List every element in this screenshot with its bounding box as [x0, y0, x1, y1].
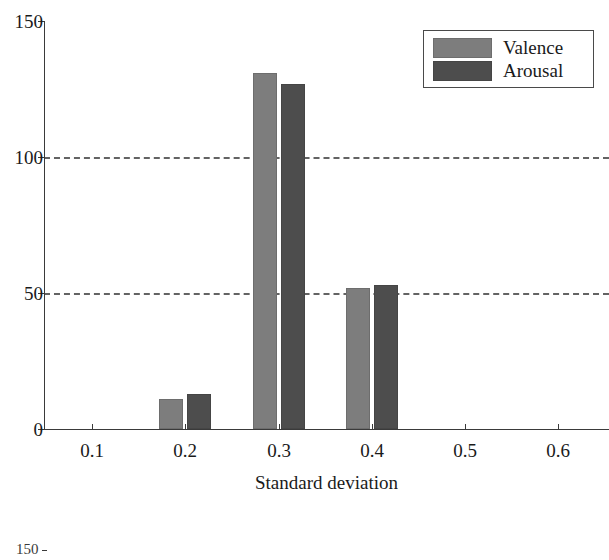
x-axis-line	[44, 429, 609, 430]
x-tick-mark-0.1	[92, 424, 93, 430]
legend-swatch-arousal-icon	[433, 61, 492, 81]
y-tick-label-100: 100	[15, 148, 44, 167]
bar-valence-0.3	[253, 73, 277, 429]
bar-arousal-0.2	[187, 394, 211, 429]
x-tick-label-0.4: 0.4	[342, 440, 402, 462]
bar-arousal-0.4	[374, 285, 398, 429]
y-tick-label-0: 0	[34, 420, 44, 439]
next-figure-tick-icon	[42, 550, 47, 551]
legend-label-valence: Valence	[503, 38, 563, 58]
x-tick-mark-0.5	[465, 424, 466, 430]
y-tick-label-150: 150	[15, 12, 44, 31]
x-tick-label-0.6: 0.6	[528, 440, 588, 462]
y-axis-line	[44, 21, 45, 430]
legend-entry-valence: Valence	[433, 36, 585, 59]
legend: Valence Arousal	[423, 30, 594, 88]
legend-entry-arousal: Arousal	[433, 59, 585, 82]
x-tick-label-0.5: 0.5	[435, 440, 495, 462]
x-tick-label-0.2: 0.2	[155, 440, 215, 462]
next-figure-y-label: 150	[16, 541, 39, 557]
next-figure-fragment: 150	[16, 541, 47, 558]
bar-chart-figure: 150 100 50 0 0.1 0.2 0.3 0.4 0.5 0.6 Sta…	[0, 0, 609, 560]
x-axis-title: Standard deviation	[44, 472, 609, 494]
gridline-100	[44, 157, 609, 159]
bar-arousal-0.3	[281, 84, 305, 429]
x-tick-label-0.1: 0.1	[62, 440, 122, 462]
legend-label-arousal: Arousal	[503, 61, 563, 81]
bar-valence-0.2	[159, 399, 183, 429]
y-tick-label-50: 50	[24, 284, 43, 303]
legend-swatch-valence-icon	[433, 38, 492, 58]
bar-valence-0.4	[346, 288, 370, 429]
x-tick-label-0.3: 0.3	[249, 440, 309, 462]
x-tick-mark-0.6	[558, 424, 559, 430]
gridline-50	[44, 293, 609, 295]
